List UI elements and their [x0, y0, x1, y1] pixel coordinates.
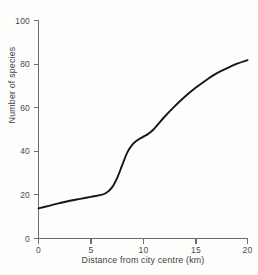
y-tick-label-0: 0 [4, 234, 30, 244]
y-tick-label-40: 40 [4, 146, 30, 156]
x-tick-label-15: 15 [191, 245, 201, 255]
y-tick-group [34, 21, 39, 239]
y-tick-label-100: 100 [4, 16, 30, 26]
x-tick-label-10: 10 [139, 245, 149, 255]
y-tick-label-20: 20 [4, 190, 30, 200]
x-axis-title: Distance from city centre (km) [38, 255, 248, 265]
plot-area [0, 0, 258, 275]
x-tick-label-5: 5 [89, 245, 94, 255]
species-curve [39, 60, 248, 208]
species-distance-chart: 0 20 40 60 80 100 0 5 10 15 20 Distance … [0, 0, 258, 275]
y-axis-title: Number of species [7, 30, 17, 140]
x-tick-group [39, 239, 248, 244]
x-tick-label-0: 0 [36, 245, 41, 255]
x-tick-label-20: 20 [243, 245, 253, 255]
